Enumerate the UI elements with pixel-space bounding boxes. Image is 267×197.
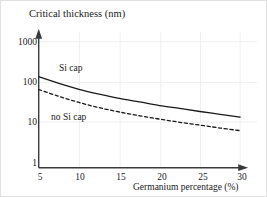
y-tick-label-100: 100 [11, 78, 37, 88]
y-tick-label-10: 10 [11, 118, 37, 128]
x-axis-arrow-icon [238, 164, 248, 171]
axis-lines [35, 29, 248, 171]
y-tick-label-1000: 1000 [11, 38, 37, 48]
x-axis-label: Germanium percentage (%) [133, 183, 239, 193]
x-tick-label-10: 10 [70, 173, 90, 183]
chart-title: Critical thickness (nm) [29, 9, 125, 20]
series-curve-no-si-cap [39, 90, 240, 131]
series-label-no-si-cap: no Si cap [51, 113, 86, 123]
chart-plot-area [1, 1, 266, 197]
x-tick-label-5: 5 [30, 173, 50, 183]
series-label-si-cap: Si cap [59, 64, 82, 74]
y-tick-label-1: 1 [11, 159, 37, 169]
chart-figure: Critical thickness (nm) 1000 100 10 1 5 … [0, 0, 267, 197]
x-tick-label-15: 15 [111, 173, 131, 183]
